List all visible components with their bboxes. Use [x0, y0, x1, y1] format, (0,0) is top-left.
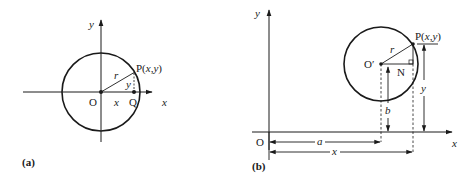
- fig-b-dim-a-label: a: [317, 135, 323, 147]
- fig-b-radius-label: r: [390, 43, 395, 55]
- fig-b-dim-x-label: x: [331, 145, 337, 157]
- fig-a-point-p-label: P(x,y): [136, 62, 162, 75]
- fig-a-q-dot: [132, 90, 136, 94]
- fig-b-right-angle-marker: [409, 60, 413, 64]
- fig-a-caption: (a): [22, 156, 35, 169]
- fig-a-segment-x-label: x: [113, 96, 119, 108]
- fig-b-dim-b-label: b: [385, 104, 391, 116]
- fig-b-center-dot: [379, 62, 383, 66]
- fig-a-point-q-label: Q: [129, 96, 137, 108]
- fig-a-radius-label: r: [114, 69, 119, 81]
- fig-b-x-axis-label: x: [451, 137, 457, 149]
- circle-equation-figure: y x O P(x,y) Q r x y (a): [0, 0, 475, 178]
- fig-a-x-axis-label: x: [161, 96, 167, 108]
- figure-b: y x O O′ N P(x,y) r a x b y (b): [252, 7, 457, 173]
- fig-b-center-label: O′: [364, 58, 374, 70]
- fig-b-origin-label: O: [256, 136, 264, 148]
- figure-a: y x O P(x,y) Q r x y (a): [22, 18, 167, 169]
- fig-b-caption: (b): [252, 160, 266, 173]
- fig-b-dim-y-label: y: [420, 82, 426, 94]
- fig-b-p-dot: [411, 42, 415, 46]
- fig-b-point-n-label: N: [397, 66, 405, 78]
- fig-a-segment-y-label: y: [125, 78, 131, 90]
- fig-a-origin-label: O: [89, 96, 97, 108]
- fig-b-point-p-label: P(x,y): [415, 30, 441, 43]
- fig-a-origin-dot: [99, 90, 103, 94]
- fig-a-y-axis-label: y: [88, 18, 94, 30]
- fig-b-radius-line: [381, 44, 413, 64]
- fig-b-y-axis-label: y: [254, 7, 260, 19]
